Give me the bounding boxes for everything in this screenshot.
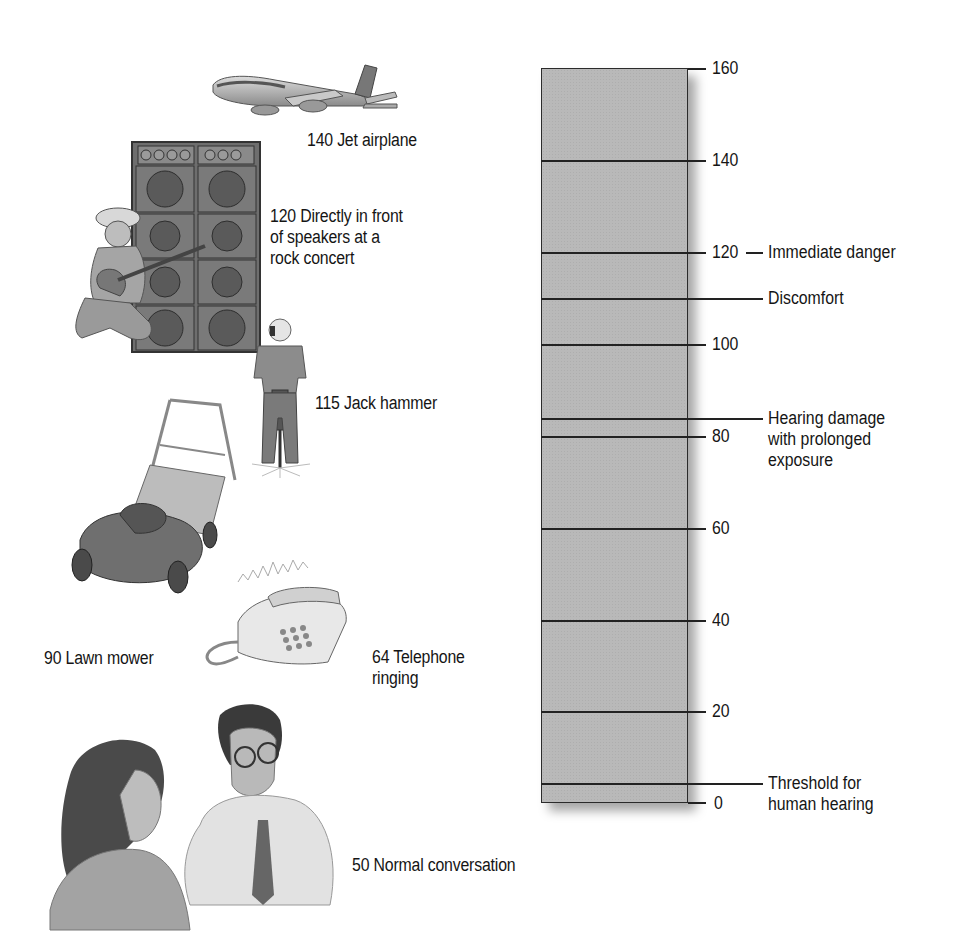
tick-label-20: 20 (712, 701, 730, 721)
threshold-line (541, 783, 763, 785)
hearing-damage-line (541, 418, 763, 420)
annotation-discomfort: Discomfort (768, 288, 844, 309)
annotation-immediate-danger: Immediate danger (768, 242, 896, 263)
source-label-jet-airplane: 140 Jet airplane (307, 130, 417, 151)
source-label-rock-concert-line1: 120 Directly in front (270, 206, 403, 227)
tick-line-140 (541, 160, 706, 162)
source-label-rock-concert-line2: of speakers at a (270, 227, 380, 248)
tick-label-140: 140 (712, 150, 738, 170)
annotation-threshold-line1: Threshold for (768, 773, 861, 794)
tick-line-60 (541, 528, 706, 530)
tick-label-80: 80 (712, 426, 730, 446)
annotation-hearing-damage-line1: Hearing damage (768, 408, 885, 429)
tick-line-20 (541, 711, 706, 713)
two-people-talking-illustration (40, 695, 340, 930)
source-label-lawn-mower: 90 Lawn mower (44, 648, 154, 669)
source-label-telephone-line1: 64 Telephone (372, 647, 465, 668)
tick-line-0 (688, 802, 706, 804)
tick-label-100: 100 (712, 334, 738, 354)
tick-line-80 (541, 436, 706, 438)
ringing-telephone-illustration (198, 542, 368, 677)
airplane-illustration (205, 60, 405, 120)
source-label-normal-conversation: 50 Normal conversation (352, 855, 515, 876)
source-label-rock-concert-line3: rock concert (270, 248, 354, 269)
annotation-hearing-damage-line2: with prolonged (768, 429, 871, 450)
discomfort-line (541, 298, 763, 300)
tick-line-100 (541, 344, 706, 346)
tick-label-160: 160 (712, 58, 738, 78)
immediate-danger-dash (746, 252, 763, 254)
annotation-threshold-line2: human hearing (768, 794, 874, 815)
tick-line-120 (541, 252, 706, 254)
annotation-hearing-damage-line3: exposure (768, 450, 833, 471)
tick-label-0: 0 (714, 793, 723, 813)
tick-line-40 (541, 620, 706, 622)
source-label-telephone-line2: ringing (372, 668, 418, 689)
tick-label-60: 60 (712, 518, 730, 538)
tick-label-40: 40 (712, 610, 730, 630)
tick-label-120: 120 (712, 242, 738, 262)
tick-line-160 (688, 68, 706, 70)
source-label-jackhammer: 115 Jack hammer (315, 393, 437, 414)
